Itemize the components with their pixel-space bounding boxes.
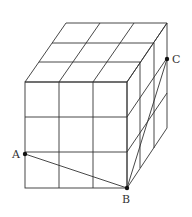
front-face [25,82,127,188]
point-b [125,186,129,190]
point-c [165,57,169,61]
segment-ab [25,154,127,188]
top-face [25,23,167,82]
segment-bc [127,59,167,188]
right-face [127,23,167,188]
cube-diagram: A B C [0,0,192,217]
label-b: B [122,193,130,206]
point-a [23,152,27,156]
label-a: A [11,148,21,161]
label-c: C [172,53,180,66]
